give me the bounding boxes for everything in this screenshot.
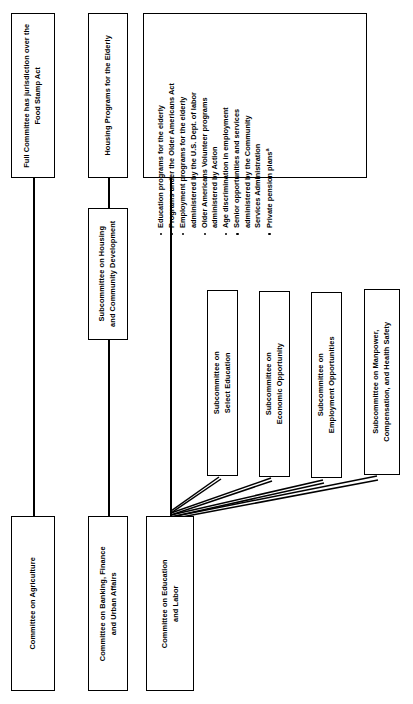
- subcommittee-label: Subcommittee on Select Education: [212, 351, 233, 414]
- note-box-housing-programs-elderly: Housing Programs for the Elderly: [88, 13, 128, 178]
- bullet-superscript-marker: a: [264, 149, 270, 152]
- bullet-item: Senior opportunities and services admini…: [232, 18, 264, 236]
- panel-education-jurisdiction: Education programs for the elderly Progr…: [143, 13, 367, 178]
- bullet-item: Programs under the Older Americans Act: [167, 18, 178, 236]
- bullet-item-with-superscript: Private pension plansa: [264, 18, 276, 236]
- note-box-food-stamp-act: Full Committee has jurisdiction over the…: [11, 13, 55, 178]
- bullet-item: Older Americans Volunteer programs admin…: [200, 18, 221, 236]
- note-label-housing-programs-elderly: Housing Programs for the Elderly: [103, 35, 114, 155]
- education-bullet-list: Education programs for the elderly Progr…: [156, 18, 276, 236]
- connector-banking-subcommittee: [108, 340, 110, 516]
- org-chart-canvas: Full Committee has jurisdiction over the…: [0, 0, 413, 704]
- note-label-food-stamp-act: Full Committee has jurisdiction over the…: [22, 23, 43, 167]
- panel-bullet-container: Education programs for the elderly Progr…: [156, 18, 277, 236]
- bullet-text: Private pension plans: [266, 152, 275, 228]
- subcommittee-select-education[interactable]: Subcommittee on Select Education: [207, 290, 238, 476]
- subcommittee-label: Subcommittee on Manpower, Compensation, …: [371, 322, 392, 442]
- subcommittee-housing-community-development[interactable]: Subcommittee on Housing and Community De…: [88, 208, 128, 340]
- connector-agriculture-note: [33, 178, 35, 516]
- committee-label: Committee on Agriculture: [28, 557, 39, 649]
- committee-banking-finance-urban-affairs[interactable]: Committee on Banking, Finance and Urban …: [88, 516, 128, 691]
- subcommittee-manpower-compensation-health-safety[interactable]: Subcommittee on Manpower, Compensation, …: [364, 289, 400, 475]
- subcommittee-employment-opportunities[interactable]: Subcommittee on Employment Opportunities: [311, 292, 342, 478]
- committee-label: Committee on Education and Labor: [159, 559, 180, 648]
- connector-banking-note: [108, 178, 110, 208]
- committee-education-and-labor[interactable]: Committee on Education and Labor: [146, 516, 194, 691]
- subcommittee-label: Subcommittee on Employment Opportunities: [316, 337, 337, 434]
- subcommittee-economic-opportunity[interactable]: Subcommittee on Economic Opportunity: [259, 291, 290, 477]
- committee-agriculture[interactable]: Committee on Agriculture: [11, 516, 55, 691]
- subcommittee-label: Subcommittee on Housing and Community De…: [97, 221, 118, 327]
- bullet-item: Education programs for the elderly: [156, 18, 167, 236]
- committee-label: Committee on Banking, Finance and Urban …: [97, 546, 118, 661]
- bullet-item: Employment programs for the elderly admi…: [178, 18, 199, 236]
- subcommittee-label: Subcommittee on Economic Opportunity: [264, 343, 285, 424]
- bullet-item: Age discrimination in employment: [221, 18, 232, 236]
